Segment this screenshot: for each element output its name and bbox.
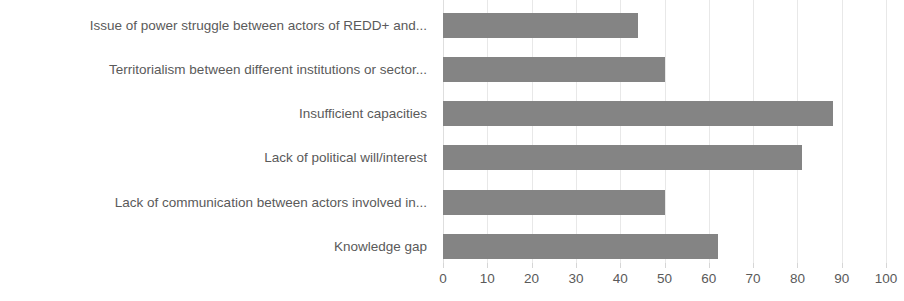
category-label: Insufficient capacities <box>0 106 427 121</box>
axis-tick-label: 20 <box>524 271 539 287</box>
bar <box>443 234 718 259</box>
axis-tick-label: 50 <box>657 271 672 287</box>
bar <box>443 101 833 126</box>
axis-tick-label: 60 <box>701 271 716 287</box>
axis-tick-mark <box>665 263 666 268</box>
axis-tick-label: 100 <box>875 271 898 287</box>
gridline <box>576 0 577 263</box>
plot-area <box>443 0 886 263</box>
category-label: Knowledge gap <box>0 239 427 254</box>
axis-tick-mark <box>709 263 710 268</box>
gridline <box>443 0 444 263</box>
category-label: Lack of political will/interest <box>0 150 427 165</box>
axis-tick-mark <box>620 263 621 268</box>
bar <box>443 190 665 215</box>
gridline <box>532 0 533 263</box>
axis-tick-mark <box>886 263 887 268</box>
axis-tick-mark <box>753 263 754 268</box>
axis-tick-label: 70 <box>746 271 761 287</box>
gridline <box>842 0 843 263</box>
bar <box>443 13 638 38</box>
bar <box>443 57 665 82</box>
bar-chart: Issue of power struggle between actors o… <box>0 0 904 301</box>
axis-tick-label: 10 <box>480 271 495 287</box>
axis-tick-mark <box>532 263 533 268</box>
gridline <box>665 0 666 263</box>
axis-tick-label: 90 <box>834 271 849 287</box>
axis-tick-mark <box>443 263 444 268</box>
category-axis: Issue of power struggle between actors o… <box>0 0 435 263</box>
gridline <box>886 0 887 263</box>
axis-tick-mark <box>576 263 577 268</box>
gridline <box>620 0 621 263</box>
category-label: Lack of communication between actors inv… <box>0 195 427 210</box>
category-label: Territorialism between different institu… <box>0 62 427 77</box>
gridline <box>709 0 710 263</box>
axis-tick-label: 80 <box>790 271 805 287</box>
gridline <box>487 0 488 263</box>
bar <box>443 145 802 170</box>
axis-tick-label: 0 <box>439 271 447 287</box>
axis-tick-label: 30 <box>568 271 583 287</box>
axis-tick-label: 40 <box>613 271 628 287</box>
axis-tick-mark <box>797 263 798 268</box>
category-label: Issue of power struggle between actors o… <box>0 18 427 33</box>
value-axis: 0102030405060708090100 <box>443 263 886 301</box>
gridline <box>753 0 754 263</box>
axis-tick-mark <box>842 263 843 268</box>
gridline <box>797 0 798 263</box>
axis-tick-mark <box>487 263 488 268</box>
